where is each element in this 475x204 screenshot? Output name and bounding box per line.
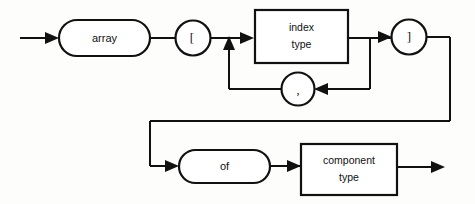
node-component-type[interactable]: component type — [301, 144, 397, 195]
arrow-into-component-type-icon — [287, 160, 301, 172]
arrow-into-of-icon — [165, 160, 179, 172]
node-index-type[interactable]: index type — [255, 10, 348, 63]
node-left-bracket-label: [ — [190, 30, 194, 45]
node-comma-label: , — [297, 83, 300, 97]
arrow-into-rbracket-icon — [378, 31, 392, 43]
railroad-diagram-canvas: array [ index type , ] of — [0, 0, 475, 204]
node-left-bracket[interactable]: [ — [176, 21, 211, 56]
railroad-diagram: array [ index type , ] of — [0, 0, 475, 204]
node-array[interactable]: array — [59, 20, 150, 56]
node-right-bracket[interactable]: ] — [392, 20, 427, 55]
exit-arrow-icon — [431, 161, 445, 173]
arrow-into-comma-icon — [314, 83, 328, 95]
node-array-label: array — [92, 32, 118, 44]
node-component-type-label-line2: type — [339, 171, 359, 183]
node-component-type-label-line1: component — [323, 154, 375, 166]
node-of-label: of — [220, 160, 230, 172]
arrow-into-index-type-icon — [240, 32, 254, 44]
node-index-type-label-line1: index — [289, 21, 315, 33]
node-index-type-shape — [255, 10, 348, 63]
node-index-type-label-line2: type — [292, 38, 312, 50]
node-comma[interactable]: , — [282, 73, 315, 106]
entry-arrow-icon — [45, 32, 59, 44]
node-of[interactable]: of — [179, 150, 270, 183]
node-component-type-shape — [301, 144, 397, 195]
node-right-bracket-label: ] — [407, 29, 411, 44]
